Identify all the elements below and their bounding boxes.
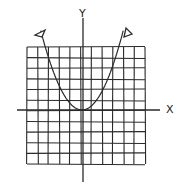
left-arrow-icon — [35, 30, 45, 37]
parabola-curve — [41, 31, 123, 110]
coordinate-grid — [0, 0, 187, 193]
right-arrow-icon — [124, 28, 132, 37]
x-axis-label: X — [166, 104, 174, 115]
y-axis-label: Y — [79, 8, 86, 19]
graph-diagram: Y X — [0, 0, 187, 193]
grid-lines — [27, 47, 146, 165]
